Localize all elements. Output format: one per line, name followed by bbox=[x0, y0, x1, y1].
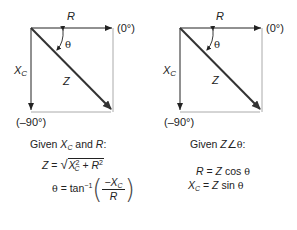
xc-label: XC bbox=[162, 64, 176, 78]
right-phasor-diagram: R (0°) θ XC Z (–90°) bbox=[162, 10, 284, 128]
phase-angle-equation: θ = tan−1(−XCR) bbox=[52, 174, 135, 204]
zero-degree-label: (0°) bbox=[266, 22, 284, 34]
r-label: R bbox=[67, 10, 75, 22]
theta-angle-arc bbox=[57, 30, 63, 50]
theta-label: θ bbox=[65, 39, 71, 50]
reactance-equation: XC = Z sin θ bbox=[188, 179, 243, 192]
z-label: Z bbox=[211, 74, 220, 86]
r-label: R bbox=[216, 10, 224, 22]
phasor-diagrams: R (0°) θ XC Z (–90°) R (0°) θ XC Z (–90°… bbox=[0, 0, 297, 230]
theta-label: θ bbox=[214, 39, 220, 50]
xc-label: XC bbox=[13, 64, 27, 78]
right-caption: Given Z∠θ: bbox=[190, 138, 245, 150]
minus-90-degree-label: (–90°) bbox=[164, 116, 194, 128]
zero-degree-label: (0°) bbox=[117, 22, 135, 34]
minus-90-degree-label: (–90°) bbox=[16, 116, 46, 128]
left-caption: Given XC and R: bbox=[30, 138, 106, 151]
resistance-equation: R = Z cos θ bbox=[196, 165, 250, 177]
ratio-fraction: −XCR bbox=[102, 176, 124, 202]
impedance-magnitude-equation: Z = √X2C + R2 bbox=[42, 157, 104, 172]
z-label: Z bbox=[62, 75, 71, 87]
left-phasor-diagram: R (0°) θ XC Z (–90°) bbox=[13, 10, 135, 128]
theta-angle-arc bbox=[207, 30, 213, 50]
